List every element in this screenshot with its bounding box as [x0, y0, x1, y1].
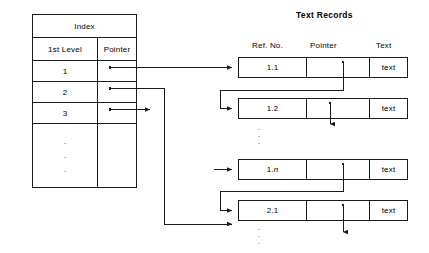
record-3-text: text	[370, 160, 407, 179]
index-row-1-pointer	[97, 61, 136, 81]
text-records-ellipsis: . . .	[253, 126, 265, 143]
index-title: Index	[33, 22, 136, 31]
text-records-ellipsis-dot: .	[258, 140, 260, 143]
text-records-header-pointer: Pointer	[310, 41, 337, 50]
index-header-row: 1st Level Pointer	[33, 38, 136, 61]
record-4-pointer	[307, 201, 370, 220]
text-records-ellipsis-dot: .	[258, 240, 260, 243]
text-record-row: 1.1 text	[238, 57, 408, 78]
index-ellipsis-dot: .	[64, 168, 66, 172]
index-row-3: 3	[33, 103, 136, 124]
record-1-text: text	[370, 58, 407, 77]
index-header-pointer: Pointer	[97, 38, 136, 60]
text-record-row: 1.n text	[238, 159, 408, 180]
text-records-header-ref-no: Ref. No.	[252, 41, 283, 50]
text-records-ellipsis-dot: .	[258, 133, 260, 136]
text-records-ellipsis: . . .	[253, 226, 265, 243]
record-4-ref-no: 2.1	[239, 201, 307, 220]
index-continuation-row: . . .	[33, 124, 136, 187]
record-4-text: text	[370, 201, 407, 220]
diagram-canvas: Index 1st Level Pointer 1 2 3 . . .	[0, 0, 429, 253]
index-ellipsis-dot: .	[64, 154, 66, 158]
index-ellipsis: . . .	[33, 124, 97, 187]
text-records-ellipsis-dot: .	[258, 226, 260, 229]
text-records-ellipsis-dot: .	[258, 233, 260, 236]
text-record-row: 2.1 text	[238, 200, 408, 221]
record-2-text: text	[370, 99, 407, 118]
record-3-ref-italic-n: n	[274, 165, 279, 174]
record-3-ref-no: 1.n	[239, 160, 307, 179]
index-title-row: Index	[33, 15, 136, 38]
text-records-title: Text Records	[296, 10, 353, 20]
index-row-1: 1	[33, 61, 136, 82]
index-row-3-level: 3	[33, 103, 97, 123]
index-table: Index 1st Level Pointer 1 2 3 . . .	[32, 14, 137, 188]
record-1-ref-no: 1.1	[239, 58, 307, 77]
index-ellipsis-dot: .	[64, 140, 66, 144]
record-3-pointer	[307, 160, 370, 179]
record-2-pointer	[307, 99, 370, 118]
text-record-row: 1.2 text	[238, 98, 408, 119]
index-row-3-pointer	[97, 103, 136, 123]
index-row-2: 2	[33, 82, 136, 103]
record-2-ref-no: 1.2	[239, 99, 307, 118]
text-records-header-row: Ref. No. Pointer Text	[238, 41, 408, 52]
record-3-ref-prefix: 1.	[267, 165, 274, 174]
index-continuation-pointer	[97, 124, 136, 187]
record-1-pointer	[307, 58, 370, 77]
index-header-1st-level: 1st Level	[33, 38, 97, 60]
index-row-2-level: 2	[33, 82, 97, 102]
index-row-2-pointer	[97, 82, 136, 102]
text-records-header-text: Text	[376, 41, 391, 50]
index-row-1-level: 1	[33, 61, 97, 81]
text-records-ellipsis-dot: .	[258, 126, 260, 129]
